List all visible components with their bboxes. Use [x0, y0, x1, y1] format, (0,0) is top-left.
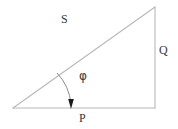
triangle-graphic	[0, 0, 178, 129]
horizontal-side-label: P	[79, 112, 86, 124]
power-triangle-figure: S Q P φ	[0, 0, 178, 129]
hypotenuse-line	[13, 7, 155, 108]
angle-label: φ	[79, 70, 87, 82]
hypotenuse-label: S	[61, 13, 68, 25]
vertical-side-label: Q	[159, 44, 168, 56]
